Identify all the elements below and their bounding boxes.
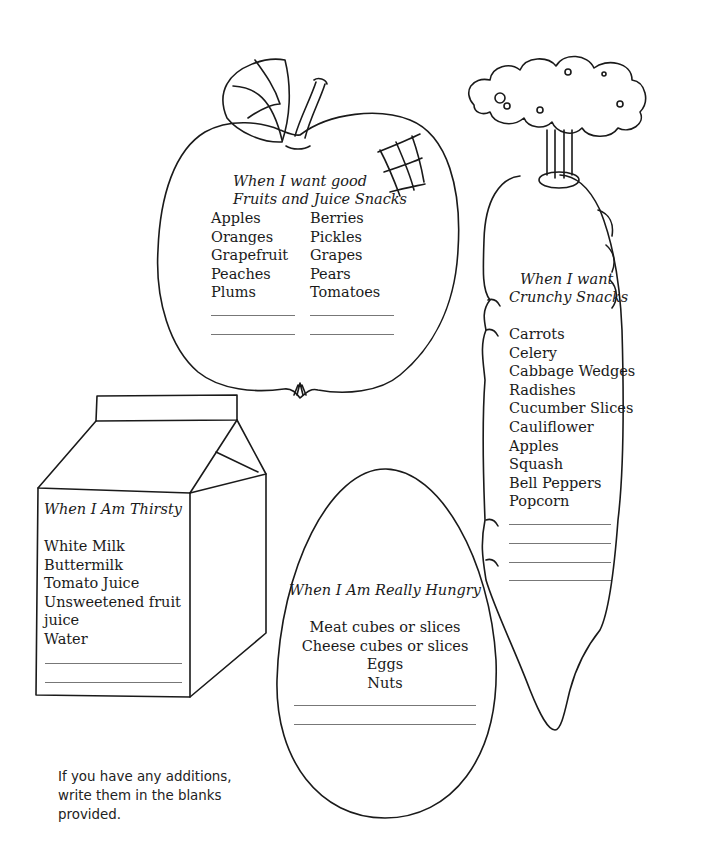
list-item: Popcorn xyxy=(509,492,635,511)
list-item: Apples xyxy=(211,209,288,228)
carrot-blank-line[interactable] xyxy=(509,524,611,525)
carrot-heading-line2: Crunchy Snacks xyxy=(509,288,628,307)
egg-heading: When I Am Really Hungry xyxy=(285,581,485,600)
list-item: Pears xyxy=(310,265,380,284)
list-item: Squash xyxy=(509,455,635,474)
list-item: Water xyxy=(44,630,181,649)
apple-blank-line[interactable] xyxy=(310,315,394,316)
egg-list: Meat cubes or slices Cheese cubes or sli… xyxy=(285,618,485,692)
list-item: Bell Peppers xyxy=(509,474,635,493)
apple-blank-line[interactable] xyxy=(310,334,394,335)
list-item: Tomato Juice xyxy=(44,574,181,593)
list-item: Cheese cubes or slices xyxy=(285,637,485,656)
footer-instructions: If you have any additions, write them in… xyxy=(58,767,232,824)
carton-heading: When I Am Thirsty xyxy=(44,500,182,519)
list-item: Pickles xyxy=(310,228,380,247)
list-item: Cauliflower xyxy=(509,418,635,437)
carrot-blank-line[interactable] xyxy=(509,543,611,544)
carton-blank-line[interactable] xyxy=(45,682,182,683)
list-item: Berries xyxy=(310,209,380,228)
list-item: Meat cubes or slices xyxy=(285,618,485,637)
list-item: juice xyxy=(44,611,181,630)
carrot-blank-line[interactable] xyxy=(509,562,611,563)
apple-left-column: Apples Oranges Grapefruit Peaches Plums xyxy=(211,209,288,302)
carrot-blank-line[interactable] xyxy=(509,580,611,581)
apple-heading-line1: When I want good xyxy=(200,172,400,191)
egg-blank-line[interactable] xyxy=(294,705,476,706)
footer-line: If you have any additions, xyxy=(58,767,232,786)
carrot-list: Carrots Celery Cabbage Wedges Radishes C… xyxy=(509,325,635,511)
list-item: Grapes xyxy=(310,246,380,265)
list-item: Carrots xyxy=(509,325,635,344)
carton-list: White Milk Buttermilk Tomato Juice Unswe… xyxy=(44,537,181,649)
list-item: Nuts xyxy=(285,674,485,693)
carton-blank-line[interactable] xyxy=(45,663,182,664)
list-item: Buttermilk xyxy=(44,556,181,575)
apple-blank-line[interactable] xyxy=(211,315,295,316)
list-item: Grapefruit xyxy=(211,246,288,265)
list-item: Eggs xyxy=(285,655,485,674)
list-item: Apples xyxy=(509,437,635,456)
list-item: Cabbage Wedges xyxy=(509,362,635,381)
apple-heading-line2: Fruits and Juice Snacks xyxy=(220,190,420,209)
footer-line: write them in the blanks xyxy=(58,786,232,805)
list-item: Tomatoes xyxy=(310,283,380,302)
list-item: Oranges xyxy=(211,228,288,247)
list-item: Plums xyxy=(211,283,288,302)
footer-line: provided. xyxy=(58,805,232,824)
carrot-heading-line1: When I want xyxy=(520,270,613,289)
apple-illustration xyxy=(158,59,459,398)
apple-right-column: Berries Pickles Grapes Pears Tomatoes xyxy=(310,209,380,302)
list-item: Cucumber Slices xyxy=(509,399,635,418)
list-item: Unsweetened fruit xyxy=(44,593,181,612)
list-item: Celery xyxy=(509,344,635,363)
egg-blank-line[interactable] xyxy=(294,724,476,725)
list-item: White Milk xyxy=(44,537,181,556)
list-item: Peaches xyxy=(211,265,288,284)
list-item: Radishes xyxy=(509,381,635,400)
apple-blank-line[interactable] xyxy=(211,334,295,335)
